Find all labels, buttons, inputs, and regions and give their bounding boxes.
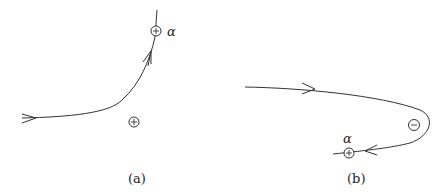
caption-a: (a)	[128, 171, 146, 186]
caption-b: (b)	[347, 171, 365, 186]
panel-a: α (a)	[22, 10, 176, 186]
arrow-icon	[22, 114, 36, 123]
alpha-label: α	[343, 131, 352, 146]
diagram-canvas: α (a) α (b)	[0, 0, 445, 196]
positive-charge-icon	[151, 26, 161, 36]
panel-b: α (b)	[245, 83, 429, 186]
trajectory-b	[245, 87, 429, 154]
alpha-label: α	[167, 24, 176, 39]
negative-charge-icon	[409, 120, 420, 131]
trajectory-a	[22, 10, 157, 118]
arrow-icon	[302, 83, 315, 94]
positive-charge-icon	[344, 148, 354, 158]
positive-charge-icon	[129, 117, 139, 127]
